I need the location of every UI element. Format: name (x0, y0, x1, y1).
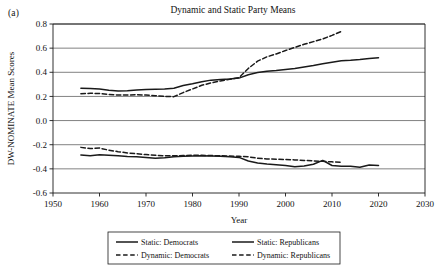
y-tick-label: 0.2 (36, 92, 47, 102)
series-line (81, 58, 379, 91)
legend-label: Dynamic: Republicans (257, 251, 330, 260)
x-tick-label: 2030 (416, 199, 435, 209)
x-axis-title: Year (231, 215, 248, 225)
y-tick-label: -0.2 (33, 140, 47, 150)
x-tick-label: 1950 (44, 199, 63, 209)
chart-title-text: Dynamic and Static Party Means (170, 5, 295, 15)
y-tick-label: 0.6 (36, 43, 48, 53)
legend-label: Dynamic: Democrats (141, 251, 209, 260)
x-tick-label: 1970 (137, 199, 156, 209)
y-tick-label: -0.4 (33, 164, 48, 174)
series-line (81, 31, 341, 96)
y-tick-labels: 0.80.60.40.20.0-0.2-0.4-0.6 (33, 19, 48, 198)
series-lines (81, 31, 379, 167)
y-tick-label: 0.0 (36, 116, 48, 126)
chart-legend: Static: DemocratsStatic: RepublicansDyna… (108, 232, 340, 264)
x-tick-labels: 195019601970198019902000201020202030 (44, 199, 435, 209)
axis-ticks (50, 24, 426, 197)
x-tick-label: 1980 (184, 199, 203, 209)
plot-frame (53, 24, 425, 193)
x-tick-label: 2000 (277, 199, 296, 209)
y-tick-label: 0.8 (36, 19, 48, 29)
legend-label: Static: Democrats (141, 238, 198, 247)
figure-panel: (a) Dynamic and Static Party Means 0.80.… (0, 0, 436, 273)
x-tick-label: 2010 (323, 199, 342, 209)
chart-title: Dynamic and Static Party Means (0, 5, 436, 15)
y-tick-label: 0.4 (36, 67, 48, 77)
y-axis-title: DW-NOMINATE Mean Scores (6, 51, 16, 165)
x-tick-label: 1960 (91, 199, 110, 209)
series-line (81, 147, 341, 162)
x-tick-label: 2020 (370, 199, 389, 209)
line-chart: 0.80.60.40.20.0-0.2-0.4-0.6 195019601970… (0, 0, 436, 273)
y-tick-label: -0.6 (33, 188, 48, 198)
grid-lines (53, 24, 425, 169)
legend-label: Static: Republicans (257, 238, 319, 247)
x-tick-label: 1990 (230, 199, 249, 209)
